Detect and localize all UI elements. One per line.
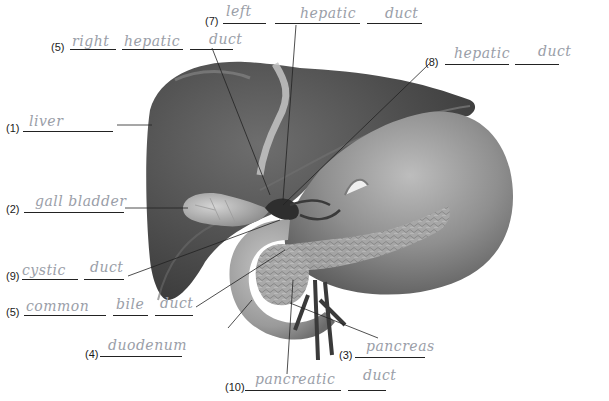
label-8-blank-2[interactable] — [515, 64, 559, 65]
label-1-answer: liver — [29, 114, 63, 128]
label-8-answer-2: duct — [538, 44, 571, 58]
label-6-answer-1: right — [72, 34, 109, 48]
label-10-blank-1[interactable] — [245, 390, 341, 391]
label-5-blank-2[interactable] — [113, 315, 148, 316]
label-10-answer-1: pancreatic — [255, 372, 335, 386]
label-7-blank-2[interactable] — [275, 23, 360, 24]
label-10-number: (10) — [225, 381, 245, 393]
label-6-blank-1[interactable] — [70, 49, 116, 50]
label-7-blank-1[interactable] — [223, 23, 266, 24]
label-6-blank-3[interactable] — [190, 49, 233, 50]
label-2-blank[interactable] — [24, 212, 124, 213]
label-5-answer-1: common — [26, 299, 89, 313]
label-10-answer-2: duct — [363, 368, 396, 382]
label-6-answer-2: hepatic — [124, 34, 180, 48]
label-3-blank[interactable] — [355, 357, 425, 358]
label-4-blank[interactable] — [100, 356, 182, 357]
label-10-blank-2[interactable] — [348, 390, 386, 391]
pancreas-head-shape — [256, 244, 309, 305]
label-7-number: (7) — [205, 15, 218, 27]
label-5-answer-2: bile — [116, 297, 144, 311]
label-2-answer: gall bladder — [35, 194, 126, 208]
label-7-answer-2: hepatic — [300, 6, 356, 20]
label-9-answer-1: cystic — [22, 263, 66, 277]
label-7-blank-3[interactable] — [367, 23, 422, 24]
label-7-answer-3: duct — [385, 6, 418, 20]
label-6-answer-3: duct — [209, 32, 242, 46]
label-5-blank-3[interactable] — [155, 315, 193, 316]
label-8-blank-1[interactable] — [445, 64, 509, 65]
label-4-number: (4) — [85, 348, 98, 360]
label-1-number: (1) — [6, 122, 19, 134]
label-2-number: (2) — [6, 203, 19, 215]
label-5-number: (5) — [6, 306, 19, 318]
label-9-answer-2: duct — [90, 260, 123, 274]
label-3-number: (3) — [339, 349, 352, 361]
label-6-blank-2[interactable] — [122, 49, 183, 50]
label-5-blank-1[interactable] — [24, 315, 106, 316]
label-9-number: (9) — [6, 270, 19, 282]
label-4-answer: duodenum — [108, 338, 187, 352]
label-8-number: (8) — [425, 56, 438, 68]
label-6-number: (5) — [51, 41, 64, 53]
label-9-blank-2[interactable] — [84, 279, 124, 280]
label-7-answer-1: left — [226, 4, 252, 18]
label-8-answer-1: hepatic — [454, 46, 510, 60]
label-3-answer: pancreas — [366, 339, 435, 353]
label-5-answer-3: duct — [160, 296, 193, 310]
label-1-blank[interactable] — [23, 131, 113, 132]
label-9-blank-1[interactable] — [22, 279, 78, 280]
worksheet: (5) right hepatic duct (7) left hepatic … — [0, 0, 609, 401]
